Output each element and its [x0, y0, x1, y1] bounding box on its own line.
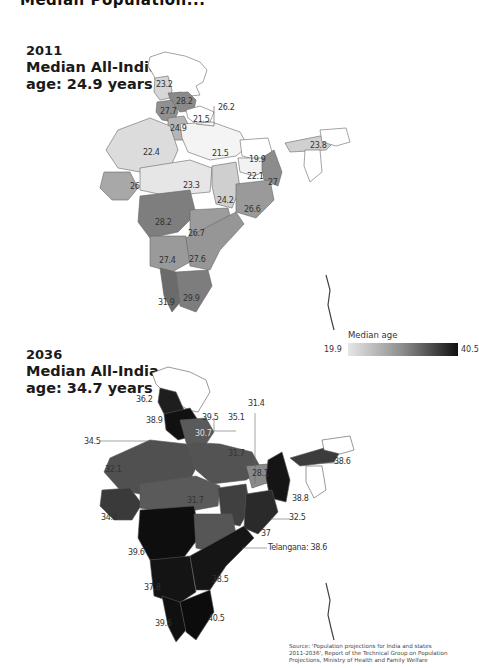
label-2036-himachal: 39.5: [202, 413, 219, 422]
label-2036-uttar-pradesh: 31.7: [228, 449, 245, 458]
label-2036-karnataka: 37.8: [144, 583, 161, 592]
source-line-2: 2011-2036', Report of the Technical Grou…: [289, 650, 479, 657]
label-2036-andhra-pradesh: 38.5: [212, 575, 229, 584]
label-2036-delhi: 34.5: [84, 437, 101, 446]
label-2036-tamil-nadu: 40.5: [208, 614, 225, 623]
label-2036-rajasthan: 32.1: [105, 465, 122, 474]
label-2036-assam: 38.6: [334, 457, 351, 466]
label-2036-odisha: 37: [261, 529, 271, 538]
label-2036-uttarakhand: 35.1: [228, 413, 245, 422]
label-2036-telangana: Telangana: 38.6: [268, 543, 327, 552]
label-2036-jammu-kashmir: 36.2: [136, 395, 153, 404]
label-2036-west-bengal: 38.8: [292, 494, 309, 503]
label-2036-leader-314: 31.4: [248, 399, 265, 408]
label-2036-jharkhand: 32.5: [289, 513, 306, 522]
india-map-2036: [0, 0, 479, 668]
label-2036-bihar: 28.1: [252, 469, 269, 478]
source-line-3: Projections, Ministry of Health and Fami…: [289, 657, 479, 664]
source-note: Source: 'Population projections for Indi…: [289, 643, 479, 664]
source-line-1: Source: 'Population projections for Indi…: [289, 643, 479, 650]
label-2036-kerala: 39.6: [155, 619, 172, 628]
label-2036-haryana: 30.7: [195, 429, 212, 438]
label-2036-maharashtra: 39.6: [128, 548, 145, 557]
label-2036-madhya-pradesh: 31.7: [187, 496, 204, 505]
label-2036-gujarat: 34.8: [101, 513, 118, 522]
label-2036-punjab: 38.9: [146, 416, 163, 425]
